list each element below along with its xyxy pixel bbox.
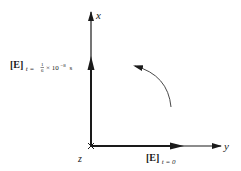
e-vector-vertical-arrowhead-icon [88, 56, 95, 70]
svg-text:[E] t = 0: [E] t = 0 [146, 152, 176, 166]
x-axis-label: x [95, 9, 101, 21]
label-e-t-later-unit: s [70, 64, 73, 72]
label-e-t-zero-subscript: t = 0 [162, 158, 176, 166]
e-vector-t-zero [91, 143, 184, 150]
label-e-t-zero-symbol: [E] [146, 152, 159, 163]
label-e-t-later-exponent: −8 [60, 63, 66, 68]
label-e-t-later-symbol: [E] [10, 59, 23, 70]
label-e-t-zero: [E] t = 0 [146, 152, 176, 166]
label-e-t-later-times: × 10 [46, 64, 59, 72]
label-e-t-later-prefix: t = [26, 65, 35, 73]
e-vector-t-later [88, 56, 95, 146]
label-e-t-later-frac-den: 6 [41, 68, 44, 73]
e-vector-horizontal-arrowhead-icon [170, 143, 184, 150]
label-e-t-later-frac-num: 1 [41, 62, 44, 67]
vector-diagram: x y z [E] t = 0 [E] t = 1 [0, 0, 241, 171]
z-axis-label: z [77, 153, 82, 164]
rotation-arrow [135, 66, 171, 107]
svg-text:× 10 −8 s: × 10 −8 s [46, 61, 73, 72]
svg-text:[E] t =: [E] t = [10, 59, 35, 73]
label-e-t-later: [E] t = 1 6 × 10 −8 s [10, 59, 73, 73]
y-axis-label: y [223, 140, 229, 152]
